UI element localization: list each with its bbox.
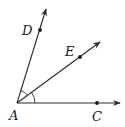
label-D: D [21,23,33,38]
angle-diagram: D E C A [0,0,125,127]
label-A: A [8,108,18,123]
ray-AE [17,42,100,103]
point-E [78,55,82,59]
angle-arc-EAC [32,92,36,103]
angle-arc-DAE [21,91,28,96]
point-D [38,28,42,32]
diagram-svg: D E C A [0,0,125,127]
label-C: C [92,109,102,124]
point-C [95,101,99,105]
label-E: E [64,44,75,59]
